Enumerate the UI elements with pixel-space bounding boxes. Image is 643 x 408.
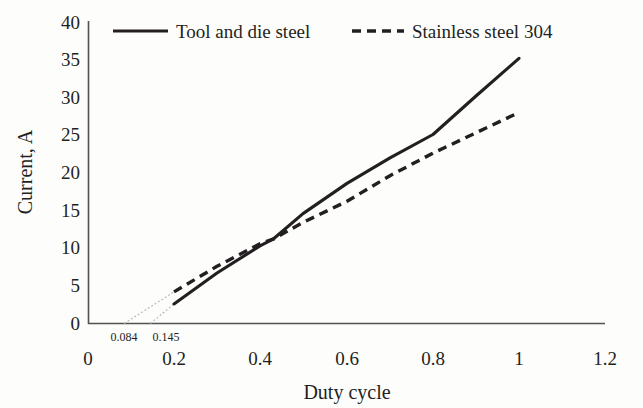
x-axis-title: Duty cycle	[303, 381, 390, 404]
x-tick-label: 0.4	[248, 348, 272, 369]
y-tick-label: 10	[61, 237, 80, 258]
x-axis-ticks: 0 0.2 0.4 0.6 0.8 1 1.2	[83, 348, 617, 369]
series-line-stainless-steel-304	[174, 113, 519, 292]
y-tick-label: 15	[61, 200, 80, 221]
y-axis-title: Current, A	[14, 129, 36, 214]
y-tick-label: 40	[61, 12, 80, 33]
y-axis-ticks: 40 35 30 25 20 15 10 5 0	[61, 12, 80, 334]
extrapolation-lines	[124, 292, 174, 324]
y-tick-label: 0	[71, 313, 81, 334]
annotation-label-0084: 0.084	[111, 330, 138, 344]
x-tick-label: 0.8	[421, 348, 445, 369]
y-tick-label: 20	[61, 162, 80, 183]
x-tick-label: 0	[83, 348, 93, 369]
legend-label-tool-and-die-steel: Tool and die steel	[176, 21, 310, 42]
legend-label-stainless-steel-304: Stainless steel 304	[412, 21, 553, 42]
y-tick-label: 35	[61, 49, 80, 70]
annotation-label-0145: 0.145	[153, 330, 180, 344]
chart-figure: 40 35 30 25 20 15 10 5 0 0 0.2 0.4 0.6 0…	[0, 0, 643, 408]
x-tick-label: 0.6	[335, 348, 359, 369]
x-tick-label: 1	[514, 348, 524, 369]
y-tick-label: 30	[61, 87, 80, 108]
x-tick-label: 1.2	[593, 348, 617, 369]
chart-legend: Tool and die steel Stainless steel 304	[113, 21, 553, 42]
y-tick-label: 5	[71, 275, 81, 296]
line-chart: 40 35 30 25 20 15 10 5 0 0 0.2 0.4 0.6 0…	[0, 0, 643, 408]
axis-lines	[89, 21, 606, 324]
x-tick-label: 0.2	[162, 348, 186, 369]
extrapolation-line-stainless	[124, 292, 174, 324]
extrapolation-line-tooldie	[151, 304, 175, 324]
y-tick-label: 25	[61, 124, 80, 145]
series-line-tool-and-die-steel	[174, 58, 519, 304]
intercept-annotations: 0.084 0.145	[111, 330, 180, 344]
